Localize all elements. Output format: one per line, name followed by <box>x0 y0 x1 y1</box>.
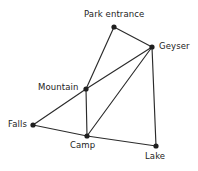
graph-node-label-mountain: Mountain <box>38 82 78 92</box>
graph-node-label-park_entrance: Park entrance <box>84 9 144 19</box>
diagram-canvas: Park entranceGeyserMountainFallsCampLake <box>0 0 198 171</box>
graph-node-lake[interactable] <box>153 143 158 148</box>
graph-node-geyser[interactable] <box>149 44 154 49</box>
graph-edge <box>152 47 156 146</box>
graph-node-camp[interactable] <box>84 133 89 138</box>
graph-node-label-lake: Lake <box>145 151 165 161</box>
graph-edge <box>86 89 87 136</box>
graph-edge <box>87 47 152 136</box>
graph-node-label-falls: Falls <box>8 119 27 129</box>
graph-edge <box>114 27 152 47</box>
graph-edge <box>33 89 86 125</box>
graph-svg <box>0 0 198 171</box>
graph-node-falls[interactable] <box>30 122 35 127</box>
graph-node-label-geyser: Geyser <box>159 41 190 51</box>
graph-node-mountain[interactable] <box>83 86 88 91</box>
graph-node-label-camp: Camp <box>70 140 95 150</box>
graph-edge <box>33 125 87 136</box>
graph-node-park_entrance[interactable] <box>111 24 116 29</box>
graph-edge <box>87 136 156 146</box>
